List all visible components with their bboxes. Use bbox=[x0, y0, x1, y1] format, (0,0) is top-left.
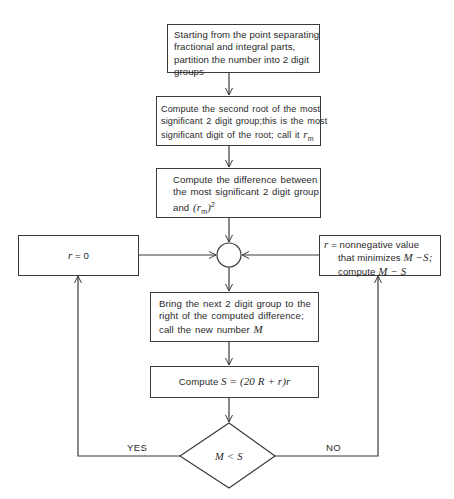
process-next-group: Bring the next 2 digit group to the righ… bbox=[150, 292, 319, 342]
decision-condition: M < S bbox=[190, 448, 268, 464]
partition-line-3: partition the number into 2 digit bbox=[174, 54, 319, 66]
process-difference: Compute the difference between the most … bbox=[156, 168, 321, 218]
sub-m: m bbox=[308, 135, 314, 142]
first-root-line-1: Compute the second root of the most bbox=[161, 103, 327, 115]
junction-connector bbox=[217, 243, 241, 267]
process-compute-s: Compute S = (20 R + r)r bbox=[150, 366, 319, 398]
first-root-line-3: significant digit of the root; call it r… bbox=[161, 128, 327, 145]
no-label: NO bbox=[326, 442, 341, 453]
first-root-line-2: significant 2 digit group;this is the mo… bbox=[161, 115, 327, 127]
r-zero-text: r = 0 bbox=[68, 249, 89, 262]
partition-line-2: fractional and integral parts, bbox=[174, 41, 319, 53]
next-group-line-3: call the new number M bbox=[159, 323, 311, 336]
difference-line-2: the most significant 2 digit group bbox=[173, 186, 319, 198]
yes-label: YES bbox=[127, 442, 147, 453]
partition-line-4: groups bbox=[174, 66, 319, 78]
r-nonneg-line-3: compute M − S bbox=[324, 265, 432, 278]
process-r-nonnegative: r = nonnegative value that minimizes M −… bbox=[319, 235, 441, 276]
next-group-line-2: right of the computed difference; bbox=[159, 310, 311, 322]
r-nonneg-line-1: r = nonnegative value bbox=[324, 238, 432, 251]
var-M: M bbox=[254, 323, 263, 335]
process-partition: Starting from the point separating fract… bbox=[167, 24, 320, 73]
next-group-line-1: Bring the next 2 digit group to the bbox=[159, 298, 311, 310]
partition-line-1: Starting from the point separating bbox=[174, 29, 319, 41]
r-nonneg-line-2: that minimizes M −S; bbox=[324, 251, 432, 264]
process-r-zero: r = 0 bbox=[18, 235, 139, 276]
process-first-root: Compute the second root of the most sign… bbox=[156, 96, 321, 146]
compute-s-text: Compute S = (20 R + r)r bbox=[179, 375, 291, 388]
difference-line-3: and (rm)2 bbox=[173, 199, 319, 219]
difference-line-1: Compute the difference between bbox=[173, 174, 319, 186]
